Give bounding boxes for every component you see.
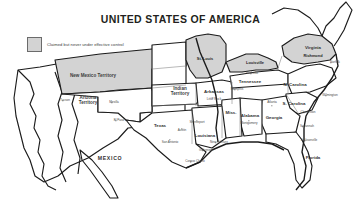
state-label-virginia: Virginia bbox=[305, 46, 321, 51]
state-label-arkansas: Arkansas bbox=[204, 90, 224, 95]
city-label-richmond: Richmond bbox=[303, 54, 322, 58]
state-label-texas: Texas bbox=[154, 124, 166, 129]
state-label-s-carolina: S. Carolina bbox=[283, 102, 306, 107]
page-title: UNITED STATES OF AMERICA bbox=[0, 13, 361, 25]
legend: Claimed but never under effective contro… bbox=[27, 37, 124, 52]
city-label-new-orleans: New Orleans bbox=[210, 141, 228, 144]
territory-label-indian-territory: IndianTerritory bbox=[171, 87, 190, 97]
state-label-tennessee: Tennessee bbox=[239, 80, 261, 85]
city-label-shreveport: Shreveport bbox=[189, 121, 204, 124]
city-label-montgomery: Montgomery bbox=[240, 122, 257, 125]
city-label-norfolk: Norfolk bbox=[330, 61, 340, 64]
territory-label-arizona-territory: ArizonaTerritory bbox=[79, 96, 98, 106]
city-label-austin: Austin bbox=[178, 129, 187, 132]
city-label-jacksonville: Jacksonville bbox=[301, 139, 318, 142]
map-container: UNITED STATES OF AMERICA Claimed but nev… bbox=[0, 0, 361, 203]
city-label-little-rock: Little Rock bbox=[207, 98, 221, 101]
united-states-map-graphic bbox=[0, 0, 361, 203]
state-label-n-carolina: N. Carolina bbox=[283, 83, 306, 88]
territory-label-new-mexico-territory: New Mexico Territory bbox=[70, 74, 116, 79]
city-label-atlanta: Atlanta bbox=[267, 101, 277, 104]
legend-swatch-claimed bbox=[27, 37, 42, 52]
state-label-miss: Miss. bbox=[226, 111, 237, 116]
city-label-nashville: Nashville bbox=[246, 72, 259, 75]
central-plains-outline bbox=[152, 42, 186, 90]
city-label-st-louis: St. Louis bbox=[197, 57, 213, 61]
city-label-corpus-christi: Corpus Christi bbox=[185, 160, 205, 163]
country-label-mexico: MEXICO bbox=[98, 156, 123, 162]
state-label-florida: Florida bbox=[306, 156, 321, 161]
state-label-louisiana: Louisiana bbox=[195, 134, 216, 139]
state-label-alabama: Alabama bbox=[241, 114, 259, 119]
city-label-galveston: Galveston bbox=[199, 149, 213, 152]
north-carolina-outline bbox=[288, 64, 336, 94]
city-label-memphis: Memphis bbox=[231, 88, 244, 91]
city-label-san-antonio: San Antonio bbox=[162, 141, 179, 144]
city-label-louisville: Louisville bbox=[246, 61, 264, 65]
state-label-georgia: Georgia bbox=[266, 116, 283, 121]
legend-label-claimed: Claimed but never under effective contro… bbox=[47, 42, 124, 47]
